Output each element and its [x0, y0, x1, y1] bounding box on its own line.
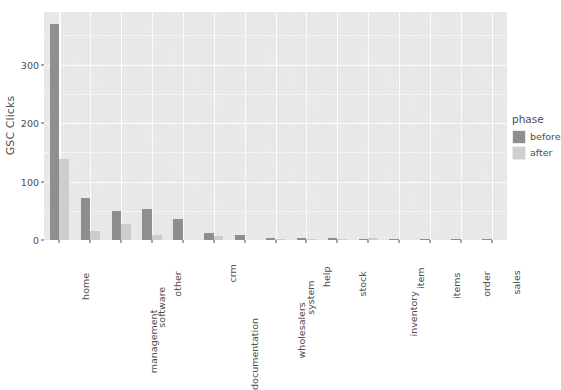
- x-tick-label-home: home: [81, 273, 92, 300]
- x-tick-mark: [182, 240, 183, 243]
- x-tick-mark: [152, 240, 153, 243]
- bar-management-after[interactable]: [90, 231, 100, 240]
- x-tick-mark: [368, 240, 369, 243]
- bar-management-before[interactable]: [81, 198, 91, 240]
- x-tick-mark: [306, 240, 307, 243]
- plot-panel: [44, 12, 507, 240]
- bar-crm-before[interactable]: [204, 233, 214, 240]
- x-tick-mark: [90, 240, 91, 243]
- legend-swatch-before: [512, 130, 526, 144]
- y-axis-title-label: GSC Clicks: [5, 95, 18, 155]
- x-tick-label-inventory: inventory: [408, 291, 419, 336]
- x-tick-label-sales: sales: [510, 270, 521, 294]
- x-axis: homemanagementsoftwareotherdocumentation…: [44, 240, 507, 325]
- legend-item-before[interactable]: before: [512, 129, 558, 144]
- y-tick-label: 100: [21, 176, 39, 187]
- y-axis-ticks: 0100200300: [20, 12, 44, 240]
- x-tick-label-stock: stock: [357, 271, 368, 296]
- y-tick-label: 0: [33, 235, 39, 246]
- bar-documentation-before[interactable]: [173, 219, 183, 240]
- legend-label-after: after: [530, 147, 552, 158]
- y-tick-label: 300: [21, 59, 39, 70]
- bar-other-before[interactable]: [142, 209, 152, 240]
- x-tick-mark: [121, 240, 122, 243]
- x-tick-label-other: other: [172, 271, 183, 296]
- x-tick-label-order: order: [481, 271, 492, 296]
- x-tick-mark: [244, 240, 245, 243]
- legend-title: phase: [512, 113, 558, 125]
- bar-software-before[interactable]: [112, 211, 122, 240]
- x-tick-mark: [429, 240, 430, 243]
- y-axis-title: GSC Clicks: [2, 0, 20, 250]
- x-tick-mark: [460, 240, 461, 243]
- bar-software-after[interactable]: [121, 224, 131, 240]
- y-tick-label: 200: [21, 118, 39, 129]
- x-tick-mark: [275, 240, 276, 243]
- x-tick-label-system: system: [304, 280, 315, 314]
- legend-swatch-after: [512, 146, 526, 160]
- x-tick-mark: [213, 240, 214, 243]
- bar-home-before[interactable]: [50, 24, 60, 240]
- legend: phase before after: [512, 113, 558, 161]
- x-tick-label-software: software: [156, 287, 167, 328]
- x-tick-mark: [491, 240, 492, 243]
- legend-item-after[interactable]: after: [512, 145, 558, 160]
- x-tick-mark: [337, 240, 338, 243]
- x-tick-label-item: item: [415, 267, 426, 288]
- x-tick-label-documentation: documentation: [249, 318, 260, 390]
- bars-layer: [44, 12, 507, 240]
- x-tick-label-crm: crm: [226, 264, 237, 282]
- legend-label-before: before: [530, 131, 561, 142]
- x-tick-mark: [398, 240, 399, 243]
- x-tick-label-items: items: [451, 272, 462, 298]
- bar-home-after[interactable]: [59, 159, 69, 240]
- x-tick-label-help: help: [321, 267, 332, 288]
- x-tick-mark: [59, 240, 60, 243]
